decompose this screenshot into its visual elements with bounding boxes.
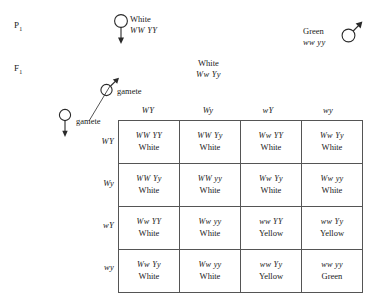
punnett-cell: WW Yy White [180, 121, 241, 164]
punnett-cell: ww Yy Yellow [241, 250, 302, 293]
female-parent-genotype: WW YY [130, 25, 157, 35]
gamete-column-header-4: wy [298, 105, 358, 115]
cell-genotype: Ww Yy [119, 260, 179, 271]
cell-genotype: WW YY [119, 131, 179, 142]
cell-genotype: WW Yy [180, 131, 240, 142]
gamete-column-header-2: Wy [178, 105, 238, 115]
female-parent-phenotype: White [130, 14, 151, 24]
cell-genotype: ww Yy [302, 217, 362, 228]
f1-phenotype: White [198, 58, 219, 68]
punnett-square-grid: WW YY White WW Yy White Ww YY White Ww Y… [118, 120, 363, 293]
cell-phenotype: Yellow [302, 228, 362, 239]
punnett-row: WW YY White WW Yy White Ww YY White Ww Y… [119, 121, 363, 164]
cell-genotype: ww yy [302, 260, 362, 271]
male-symbol-icon [340, 20, 364, 44]
punnett-cell: WW YY White [119, 121, 180, 164]
cell-phenotype: White [302, 142, 362, 153]
gamete-column-header-1: WY [118, 105, 178, 115]
cell-phenotype: White [119, 228, 179, 239]
punnett-row: WW Yy White WW yy White Ww Yy White Ww y… [119, 164, 363, 207]
punnett-cell: Ww YY White [241, 121, 302, 164]
male-parent-genotype: ww yy [303, 37, 326, 47]
punnett-cell: Ww Yy White [119, 250, 180, 293]
cell-phenotype: Green [302, 271, 362, 282]
cell-genotype: WW yy [180, 174, 240, 185]
parental-generation-subscript: 1 [19, 26, 22, 32]
female-parent-symbol [113, 13, 129, 45]
punnett-cell: Ww yy White [180, 207, 241, 250]
male-parent-phenotype: Green [303, 26, 324, 36]
gamete-row-header-4: wy [88, 262, 114, 272]
cell-genotype: WW Yy [119, 174, 179, 185]
cell-phenotype: White [180, 228, 240, 239]
punnett-cell: Ww Yy White [241, 164, 302, 207]
cell-phenotype: White [119, 271, 179, 282]
punnett-row: Ww YY White Ww yy White ww YY Yellow ww … [119, 207, 363, 250]
punnett-cell: ww YY Yellow [241, 207, 302, 250]
punnett-cell: ww Yy Yellow [302, 207, 363, 250]
cell-phenotype: White [241, 142, 301, 153]
cell-genotype: Ww YY [119, 217, 179, 228]
female-symbol-icon [58, 108, 72, 138]
male-parent-symbol [340, 20, 364, 44]
cell-genotype: Ww yy [180, 260, 240, 271]
f1-generation-subscript: 1 [19, 69, 22, 75]
cell-genotype: ww YY [241, 217, 301, 228]
cell-phenotype: White [241, 185, 301, 196]
f1-generation-label: F1 [14, 63, 22, 75]
punnett-cell: Ww yy White [180, 250, 241, 293]
punnett-cell: WW Yy White [119, 164, 180, 207]
punnett-cell: ww yy Green [302, 250, 363, 293]
punnett-cell: Ww yy White [302, 164, 363, 207]
cell-phenotype: Yellow [241, 228, 301, 239]
cell-genotype: Ww Yy [241, 174, 301, 185]
female-symbol-icon [113, 13, 129, 45]
male-parent-text: Green ww yy [303, 26, 326, 48]
punnett-cell: Ww YY White [119, 207, 180, 250]
punnett-cell: WW yy White [180, 164, 241, 207]
cell-phenotype: White [119, 185, 179, 196]
female-gamete-symbol [58, 108, 72, 138]
parental-generation-label: P1 [14, 20, 22, 32]
cell-genotype: Ww YY [241, 131, 301, 142]
cell-phenotype: White [302, 185, 362, 196]
cell-genotype: ww Yy [241, 260, 301, 271]
gamete-row-header-2: Wy [88, 178, 114, 188]
punnett-cell: Ww Yy White [302, 121, 363, 164]
f1-offspring-text: White Ww Yy [196, 58, 221, 80]
gamete-row-header-3: wY [88, 220, 114, 230]
cell-phenotype: White [119, 142, 179, 153]
cell-genotype: Ww yy [180, 217, 240, 228]
male-gamete-label: gamete [117, 86, 142, 96]
female-parent-text: White WW YY [130, 14, 157, 36]
gamete-row-header-1: WY [88, 136, 114, 146]
gamete-column-header-3: wY [238, 105, 298, 115]
female-gamete-label: gamete [76, 116, 101, 126]
f1-genotype: Ww Yy [196, 69, 221, 79]
cell-phenotype: White [180, 271, 240, 282]
cell-phenotype: Yellow [241, 271, 301, 282]
cell-genotype: Ww Yy [302, 131, 362, 142]
cell-genotype: Ww yy [302, 174, 362, 185]
punnett-row: Ww Yy White Ww yy White ww Yy Yellow ww … [119, 250, 363, 293]
cell-phenotype: White [180, 185, 240, 196]
cell-phenotype: White [180, 142, 240, 153]
